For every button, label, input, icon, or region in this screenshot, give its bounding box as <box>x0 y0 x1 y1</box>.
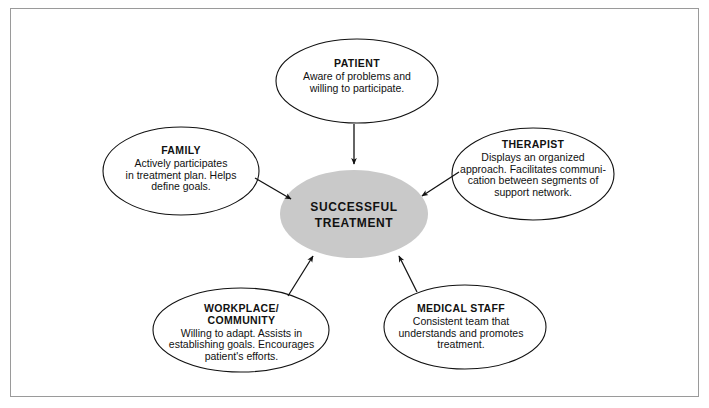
center-node-ellipse <box>280 170 428 258</box>
node-ellipse-medical <box>384 285 546 369</box>
node-ellipse-therapist <box>452 128 614 220</box>
diagram-graphics <box>0 0 709 408</box>
node-ellipse-patient <box>276 39 438 123</box>
connector-medical-to-center <box>399 256 417 292</box>
node-ellipse-workplace <box>153 288 329 372</box>
connector-workplace-to-center <box>288 256 313 296</box>
diagram-canvas: PATIENT Aware of problems and willing to… <box>0 0 709 408</box>
connector-family-to-center <box>255 178 291 199</box>
node-ellipse-family <box>103 127 259 215</box>
